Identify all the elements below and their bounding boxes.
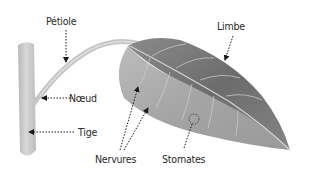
label-noeud: Nœud [69,93,97,104]
label-stomates: Stomates [162,154,205,165]
label-tige: Tige [78,127,97,138]
stem [18,42,48,155]
label-nervures: Nervures [95,154,136,165]
label-limbe: Limbe [217,21,245,32]
leaf-diagram: Pétiole Limbe Nœud Tige Nervures Stomate… [0,0,323,171]
nervures-arrow-2 [124,108,148,150]
leaf-blade [119,38,290,150]
label-petiole: Pétiole [46,16,76,27]
limbe-arrow [225,36,233,60]
